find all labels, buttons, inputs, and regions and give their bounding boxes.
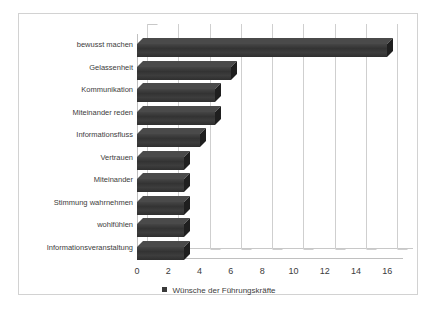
category-label: Stimmung wahrnehmen [54, 198, 133, 208]
category-label: Informationsfluss [76, 130, 133, 140]
bar-item [137, 237, 403, 260]
bar-item [137, 214, 403, 237]
category-label: Miteinander [94, 175, 133, 185]
tick-label: 0 [127, 266, 147, 276]
bar-item [137, 34, 403, 57]
category-label: bewusst machen [77, 40, 133, 50]
bar-3d [137, 218, 184, 231]
category-label: Miteinander reden [73, 108, 133, 118]
category-label: Vertrauen [100, 153, 133, 163]
category-label: Kommunikation [81, 85, 133, 95]
legend-marker-icon [162, 287, 167, 292]
bar-front-face [137, 247, 184, 260]
chart-legend: Wünsche der Führungskräfte [19, 286, 419, 295]
bar-3d [137, 241, 184, 254]
tick-label: 14 [346, 266, 366, 276]
bar-item [137, 147, 403, 170]
bar-front-face [137, 179, 184, 192]
tick-label: 16 [377, 266, 397, 276]
bar-front-face [137, 67, 231, 80]
tick-label: 12 [315, 266, 335, 276]
bar-front-face [137, 224, 184, 237]
tick-label: 4 [190, 266, 210, 276]
bar-3d [137, 151, 184, 164]
bar-3d [137, 83, 215, 96]
tick-label: 10 [283, 266, 303, 276]
bar-3d [137, 38, 387, 51]
chart-container: bewusst machenGelassenheitKommunikationM… [18, 13, 418, 295]
category-axis-labels: bewusst machenGelassenheitKommunikationM… [19, 34, 133, 259]
tick-label: 6 [221, 266, 241, 276]
bar-3d [137, 61, 231, 74]
tick-label: 2 [158, 266, 178, 276]
bar-front-face [137, 134, 200, 147]
bar-item [137, 102, 403, 125]
category-label: Gelassenheit [89, 63, 133, 73]
bar-front-face [137, 112, 215, 125]
bar-front-face [137, 89, 215, 102]
bar-item [137, 79, 403, 102]
bar-front-face [137, 44, 387, 57]
tick-label: 8 [252, 266, 272, 276]
category-label: Informationsveranstaltung [47, 243, 133, 253]
bar-front-face [137, 157, 184, 170]
bar-item [137, 124, 403, 147]
legend-label: Wünsche der Führungskräfte [172, 286, 275, 295]
category-label: wohlfühlen [97, 220, 133, 230]
bar-3d [137, 196, 184, 209]
bar-front-face [137, 202, 184, 215]
bar-3d [137, 173, 184, 186]
bar-3d [137, 128, 200, 141]
plot-area [137, 34, 403, 259]
bar-item [137, 169, 403, 192]
bar-3d [137, 106, 215, 119]
bar-item [137, 192, 403, 215]
bar-item [137, 57, 403, 80]
bar-side-face [387, 38, 393, 57]
